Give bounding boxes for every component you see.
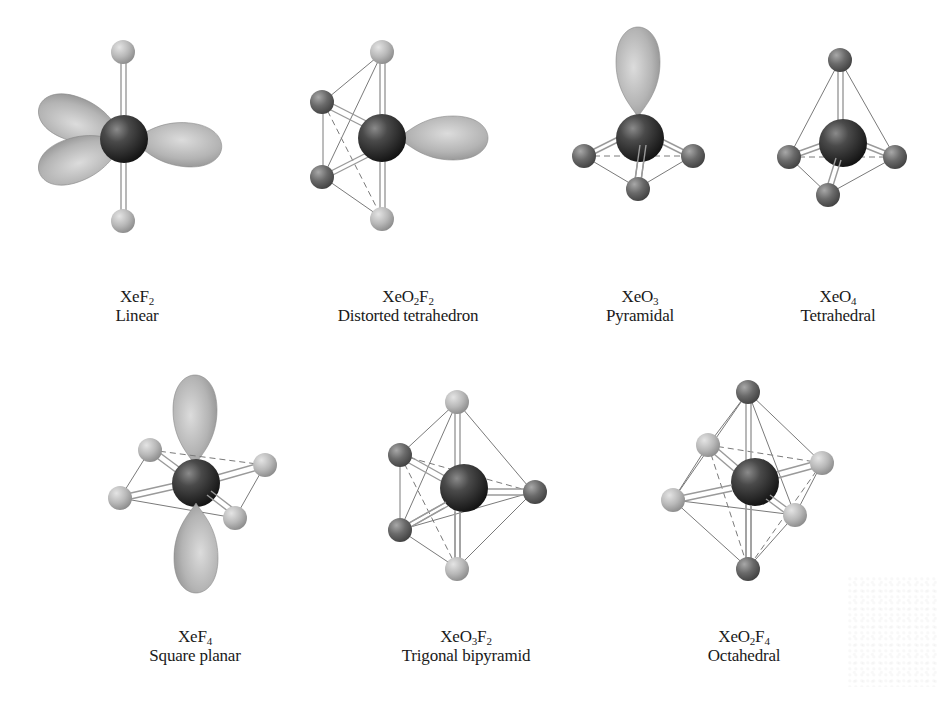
geometry-label-xef2: Linear — [115, 306, 158, 325]
oxygen-atom — [523, 480, 547, 504]
formula-xef2: XeF2 — [115, 287, 158, 306]
oxygen-atom — [310, 90, 334, 114]
fluorine-atom — [810, 451, 834, 475]
oxygen-atom — [626, 177, 650, 201]
scan-noise-artifact — [848, 577, 938, 687]
geometry-label-xeo2f2: Distorted tetrahedron — [338, 306, 479, 325]
fluorine-atom — [445, 390, 469, 414]
xenon-atom — [731, 458, 779, 506]
xenon-atom — [358, 114, 406, 162]
xenon-atom — [819, 119, 867, 167]
fluorine-atom — [111, 209, 135, 233]
oxygen-atom — [828, 48, 852, 72]
caption-xeo3f2: XeO3F2 Trigonal bipyramid — [402, 627, 530, 665]
formula-xef4: XeF4 — [149, 627, 240, 646]
oxygen-atom — [816, 183, 840, 207]
fluorine-atom — [253, 453, 277, 477]
molecule-xeo2f2-diagram — [290, 30, 520, 240]
oxygen-atom — [388, 443, 412, 467]
oxygen-atom — [310, 165, 334, 189]
oxygen-atom — [777, 145, 801, 169]
fluorine-atom — [696, 433, 720, 457]
fluorine-atom — [370, 207, 394, 231]
oxygen-atom — [736, 380, 760, 404]
geometry-label-xeo2f4: Octahedral — [708, 646, 781, 665]
oxygen-atom — [388, 518, 412, 542]
formula-xeo4: XeO4 — [801, 287, 876, 306]
fluorine-atom — [111, 40, 135, 64]
geometry-label-xeo3f2: Trigonal bipyramid — [402, 646, 530, 665]
geometry-label-xef4: Square planar — [149, 646, 240, 665]
fluorine-atom — [108, 486, 132, 510]
caption-xef4: XeF4 Square planar — [149, 627, 240, 665]
xenon-atom — [100, 115, 148, 163]
molecule-xef2-diagram — [30, 30, 250, 240]
formula-xeo2f4: XeO2F4 — [708, 627, 781, 646]
xenon-atom — [440, 464, 488, 512]
molecule-xeo2f4-diagram — [650, 375, 840, 585]
molecule-xeo3-diagram — [560, 25, 720, 215]
formula-xeo3f2: XeO3F2 — [402, 627, 530, 646]
oxygen-atom — [681, 144, 705, 168]
fluorine-atom — [370, 40, 394, 64]
oxygen-atom — [572, 144, 596, 168]
caption-xeo3: XeO3 Pyramidal — [606, 287, 674, 325]
molecule-xeo3f2-diagram — [380, 385, 560, 585]
fluorine-atom — [445, 557, 469, 581]
fluorine-atom — [223, 506, 247, 530]
geometry-label-xeo4: Tetrahedral — [801, 306, 876, 325]
fluorine-atom — [783, 503, 807, 527]
caption-xeo2f4: XeO2F4 Octahedral — [708, 627, 781, 665]
molecule-xef4-diagram — [95, 365, 295, 605]
geometry-label-xeo3: Pyramidal — [606, 306, 674, 325]
formula-xeo3: XeO3 — [606, 287, 674, 306]
fluorine-atom — [661, 488, 685, 512]
oxygen-atom — [736, 557, 760, 581]
caption-xeo4: XeO4 Tetrahedral — [801, 287, 876, 325]
caption-xeo2f2: XeO2F2 Distorted tetrahedron — [338, 287, 479, 325]
molecule-xeo4-diagram — [770, 40, 920, 220]
xenon-atom — [616, 114, 664, 162]
fluorine-atom — [138, 438, 162, 462]
caption-xef2: XeF2 Linear — [115, 287, 158, 325]
oxygen-atom — [883, 145, 907, 169]
formula-xeo2f2: XeO2F2 — [338, 287, 479, 306]
